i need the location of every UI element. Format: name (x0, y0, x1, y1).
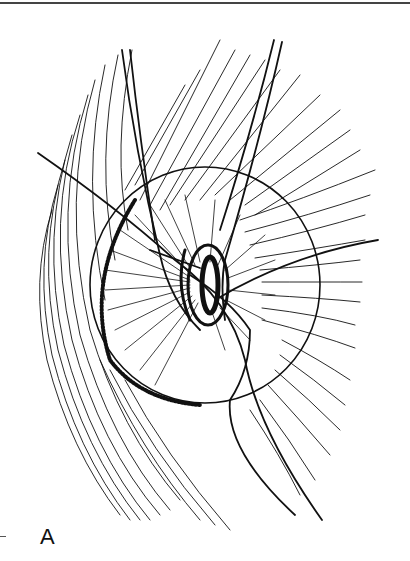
outer-hatching-right (240, 170, 375, 495)
outer-hatching-top (125, 40, 360, 215)
inner-hatching (105, 195, 275, 385)
figure-label: A (40, 524, 55, 550)
margin-tick-mark (0, 536, 6, 537)
sutures (38, 40, 378, 520)
surgical-illustration (0, 0, 410, 561)
